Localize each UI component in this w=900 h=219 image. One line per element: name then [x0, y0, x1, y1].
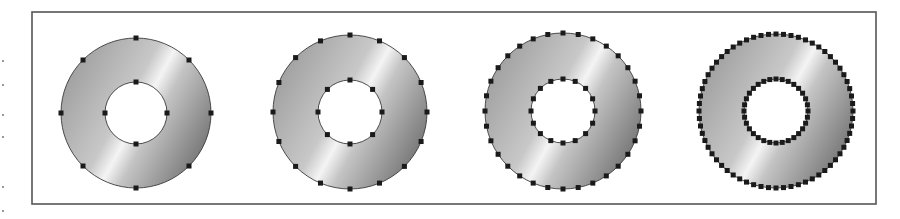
outer-control-point: [561, 31, 566, 36]
outer-control-point: [833, 60, 838, 65]
outer-control-point: [531, 181, 536, 186]
outer-control-point: [781, 185, 786, 190]
inner-control-point: [751, 86, 756, 91]
outer-control-point: [697, 116, 702, 121]
outer-control-point: [810, 41, 815, 46]
outer-control-point: [698, 94, 703, 99]
outer-control-point: [81, 58, 86, 63]
inner-control-point: [561, 77, 566, 82]
inner-control-point: [747, 126, 752, 131]
outer-control-point: [725, 168, 730, 173]
outer-control-point: [714, 157, 719, 162]
inner-control-point: [538, 86, 543, 91]
outer-control-point: [187, 164, 192, 169]
inner-control-point: [590, 96, 595, 101]
outer-control-point: [377, 181, 382, 186]
outer-control-point: [425, 110, 430, 115]
outer-control-point: [698, 124, 703, 129]
outer-control-point: [700, 131, 705, 136]
inner-control-point: [590, 121, 595, 126]
outer-control-point: [517, 173, 522, 178]
outer-control-point: [816, 173, 821, 178]
outer-control-point: [505, 164, 510, 169]
outer-control-point: [377, 38, 382, 43]
outer-control-point: [134, 36, 139, 41]
outer-control-point: [759, 184, 764, 189]
outer-control-point: [545, 185, 550, 190]
outer-control-point: [419, 80, 424, 85]
outer-control-point: [271, 110, 276, 115]
inner-control-point: [780, 140, 785, 145]
inner-control-point: [767, 77, 772, 82]
inner-control-point: [538, 131, 543, 136]
outer-control-point: [590, 36, 595, 41]
outer-control-point: [517, 44, 522, 49]
outer-control-point: [276, 80, 281, 85]
outer-control-point: [531, 36, 536, 41]
outer-control-point: [276, 139, 281, 144]
outer-control-point: [348, 187, 353, 192]
outer-control-point: [81, 164, 86, 169]
outer-control-point: [841, 72, 846, 77]
outer-control-point: [838, 151, 843, 156]
outer-control-point: [293, 164, 298, 169]
outer-control-point: [318, 181, 323, 186]
outer-control-point: [766, 32, 771, 37]
outer-control-point: [841, 145, 846, 150]
outer-control-point: [851, 109, 856, 114]
outer-control-point: [209, 111, 214, 116]
inner-control-point: [529, 109, 534, 114]
outer-control-point: [796, 35, 801, 40]
outer-control-point: [838, 66, 843, 71]
inner-control-point: [774, 141, 779, 146]
inner-control-point: [800, 91, 805, 96]
inner-control-point: [791, 82, 796, 87]
outer-control-point: [774, 186, 779, 191]
inner-control-point: [165, 111, 170, 116]
outer-control-point: [616, 53, 621, 58]
rings-group: [59, 31, 856, 192]
outer-control-point: [419, 139, 424, 144]
inner-control-point: [803, 96, 808, 101]
outer-control-point: [488, 138, 493, 143]
outer-control-point: [803, 180, 808, 185]
outer-control-point: [737, 176, 742, 181]
inner-control-point: [744, 96, 749, 101]
outer-control-point: [637, 93, 642, 98]
ring-4: [697, 32, 856, 191]
outer-control-point: [833, 157, 838, 162]
outer-control-point: [822, 168, 827, 173]
outer-control-point: [845, 79, 850, 84]
inner-control-point: [806, 109, 811, 114]
outer-control-point: [774, 32, 779, 37]
outer-control-point: [576, 32, 581, 37]
outer-control-point: [847, 86, 852, 91]
inner-control-point: [774, 77, 779, 82]
outer-control-point: [744, 37, 749, 42]
outer-control-point: [710, 151, 715, 156]
outer-control-point: [637, 124, 642, 129]
inner-control-point: [548, 79, 553, 84]
outer-control-point: [488, 79, 493, 84]
inner-control-point: [803, 121, 808, 126]
inner-control-point: [756, 82, 761, 87]
outer-control-point: [484, 93, 489, 98]
outer-control-point: [639, 109, 644, 114]
outer-control-point: [845, 138, 850, 143]
ring-approximation-figure: [0, 0, 900, 219]
outer-control-point: [803, 37, 808, 42]
outer-control-point: [796, 182, 801, 187]
outer-control-point: [850, 101, 855, 106]
inner-control-point: [800, 126, 805, 131]
outer-control-point: [751, 182, 756, 187]
outer-control-point: [789, 33, 794, 38]
inner-control-point: [531, 96, 536, 101]
outer-control-point: [781, 32, 786, 37]
outer-control-point: [850, 116, 855, 121]
outer-control-point: [702, 138, 707, 143]
outer-control-point: [822, 49, 827, 54]
outer-control-point: [849, 94, 854, 99]
outer-control-point: [700, 86, 705, 91]
outer-control-point: [402, 164, 407, 169]
outer-control-point: [847, 131, 852, 136]
